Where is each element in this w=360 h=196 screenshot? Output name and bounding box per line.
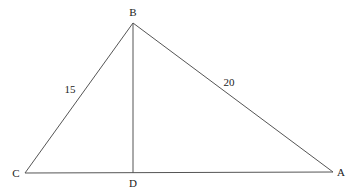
side-length-ba: 20 <box>224 76 236 88</box>
vertex-label-b: B <box>129 6 136 18</box>
segment-ca <box>25 172 333 173</box>
vertex-label-a: A <box>337 166 345 178</box>
segment-ba <box>133 23 333 172</box>
point-label-d: D <box>129 177 137 189</box>
vertex-label-c: C <box>12 167 19 179</box>
side-length-bc: 15 <box>65 83 77 95</box>
segment-bc <box>25 23 133 173</box>
triangle-diagram: B C D A 15 20 <box>0 0 360 196</box>
